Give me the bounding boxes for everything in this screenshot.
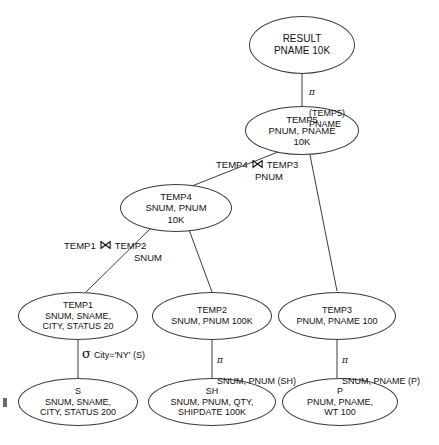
projection-temp2-label: π SNUM, PNUM (SH)	[217, 344, 296, 387]
node-s[interactable]: S SNUM, SNAME, CITY, STATUS 200	[18, 378, 138, 426]
node-temp1[interactable]: TEMP1 SNUM, SNAME, CITY, STATUS 20	[18, 292, 138, 340]
node-result[interactable]: RESULT PNAME 10K	[249, 16, 355, 74]
join-temp4-left: TEMP1	[64, 240, 96, 251]
node-temp2-label: TEMP2 SNUM, PNUM 100K	[171, 305, 253, 326]
node-temp3[interactable]: TEMP3 PNUM, PNAME 100	[278, 292, 396, 340]
projection-temp2-text: SNUM, PNUM (SH)	[217, 376, 296, 386]
query-tree-diagram: RESULT PNAME 10K π (TEMP5) PNAME TEMP5 P…	[0, 0, 439, 445]
node-result-label: RESULT PNAME 10K	[274, 33, 330, 57]
join-temp5-right: TEMP3	[267, 159, 299, 170]
node-p-label: P PNUM, PNAME, WT 100	[307, 386, 373, 418]
selection-temp1-label: σ City='NY' (S)	[82, 346, 145, 361]
scan-artifact-mark	[3, 398, 7, 407]
projection-result-text: (TEMP5) PNAME	[309, 108, 345, 129]
join-temp5-left: TEMP4	[216, 159, 248, 170]
join-icon: ⋈	[251, 156, 264, 171]
projection-result-label: π (TEMP5) PNAME	[309, 76, 345, 130]
node-temp4-label: TEMP4 SNUM, PNUM 10K	[145, 191, 206, 225]
projection-temp3-label: π SNUM, PNAME (P)	[342, 344, 420, 387]
selection-temp1-text: City='NY' (S)	[94, 350, 145, 360]
join-temp5: TEMP4 ⋈ TEMP3	[216, 157, 298, 172]
pi-icon: π	[217, 355, 223, 365]
node-temp1-label: TEMP1 SNUM, SNAME, CITY, STATUS 20	[42, 300, 113, 332]
projection-temp3-text: SNUM, PNAME (P)	[342, 376, 420, 386]
sigma-icon: σ	[82, 346, 91, 361]
edge-temp5-temp3	[310, 155, 337, 291]
node-temp3-label: TEMP3 PNUM, PNAME 100	[296, 305, 377, 326]
node-sh-label: SH SNUM, PNUM, QTY, SHIPDATE 100K	[171, 386, 254, 418]
join-temp4: TEMP1 ⋈ TEMP2	[64, 238, 146, 253]
join-temp4-right: TEMP2	[115, 240, 147, 251]
join-temp4-attribute: SNUM	[123, 252, 173, 263]
pi-icon: π	[309, 87, 315, 97]
join-temp5-attribute: PNUM	[244, 171, 294, 182]
node-temp4[interactable]: TEMP4 SNUM, PNUM 10K	[120, 184, 232, 232]
join-icon: ⋈	[99, 237, 112, 252]
node-s-label: S SNUM, SNAME, CITY, STATUS 200	[40, 386, 116, 418]
pi-icon: π	[342, 355, 348, 365]
node-temp2[interactable]: TEMP2 SNUM, PNUM 100K	[152, 292, 272, 340]
edge-temp4-temp2	[188, 227, 212, 292]
